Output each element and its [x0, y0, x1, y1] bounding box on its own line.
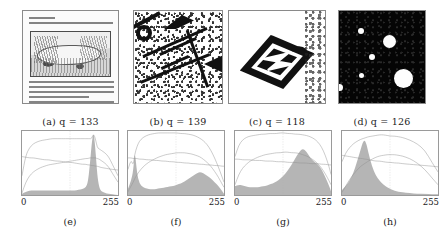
x-tick-max-e: 255 — [103, 197, 119, 207]
axis-ticks-h: 0 255 — [341, 196, 439, 209]
image-panel-c: (c) q = 118 — [228, 10, 326, 104]
sky-noise-texture — [339, 11, 425, 103]
image-panel-row: (a) q = 133 (b) q = 139 — [0, 0, 444, 105]
histogram-panel-f: 0 255 (f) — [127, 130, 225, 209]
engraving-illustration — [30, 31, 111, 77]
histogram-panel-h: 0 255 (h) — [341, 130, 439, 209]
histogram-panel-row: 0 255 (e) 0 255 (f) 0 255 (g) 0 — [0, 130, 444, 237]
caption-e: (e) — [21, 216, 119, 227]
histogram-panel-g: 0 255 (g) — [234, 130, 332, 209]
caption-a: (a) q = 133 — [22, 116, 119, 127]
x-tick-max-f: 255 — [209, 197, 225, 207]
bright-blob — [358, 28, 364, 34]
plot-area-f — [127, 130, 225, 196]
x-tick-min-f: 0 — [127, 197, 132, 207]
bright-blob — [383, 35, 396, 48]
bright-blob — [359, 73, 364, 78]
axis-ticks-f: 0 255 — [127, 196, 225, 209]
caption-h: (h) — [341, 216, 439, 227]
binarized-scan-content — [134, 11, 222, 103]
dark-sky-content — [339, 11, 425, 103]
plot-area-h — [341, 130, 439, 196]
axis-ticks-e: 0 255 — [21, 196, 119, 209]
bright-blob — [369, 54, 375, 60]
logo-edge-noise — [304, 11, 325, 103]
plot-area-e — [21, 130, 119, 196]
x-tick-max-g: 255 — [316, 197, 332, 207]
x-tick-min-g: 0 — [234, 197, 239, 207]
bright-blob — [394, 69, 413, 88]
scan-noise-texture — [134, 11, 222, 103]
image-frame-d — [338, 10, 426, 104]
x-tick-max-h: 255 — [423, 197, 439, 207]
image-frame-a — [22, 10, 119, 104]
caption-c: (c) q = 118 — [228, 116, 326, 127]
histogram-panel-e: 0 255 (e) — [21, 130, 119, 209]
axis-ticks-g: 0 255 — [234, 196, 332, 209]
image-panel-b: (b) q = 139 — [133, 10, 223, 104]
caption-g: (g) — [234, 216, 332, 227]
caption-b: (b) q = 139 — [133, 116, 223, 127]
plot-area-g — [234, 130, 332, 196]
x-tick-min-h: 0 — [341, 197, 346, 207]
image-frame-c — [228, 10, 326, 104]
image-frame-b — [133, 10, 223, 104]
caption-d: (d) q = 126 — [338, 116, 426, 127]
x-tick-min-e: 0 — [21, 197, 26, 207]
image-panel-a: (a) q = 133 — [22, 10, 119, 104]
image-panel-d: (d) q = 126 — [338, 10, 426, 104]
caption-f: (f) — [127, 216, 225, 227]
figure-root: (a) q = 133 (b) q = 139 — [0, 0, 444, 237]
